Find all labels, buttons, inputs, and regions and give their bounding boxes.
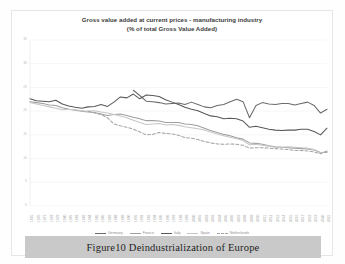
- legend-label: Germany: [108, 231, 123, 235]
- series-line-germany: [133, 90, 327, 118]
- x-tick-label: 1999: [186, 215, 189, 222]
- legend-item-germany[interactable]: Germany: [95, 231, 123, 235]
- legend-label: Spain: [200, 231, 209, 235]
- x-tick-label: 2008: [244, 215, 247, 222]
- x-tick-label: 2020: [322, 215, 325, 222]
- x-tick-label: 2002: [206, 215, 209, 222]
- figure-caption-bar: Figure10 Deindustrialization of Europe: [25, 236, 321, 258]
- x-tick-label: 1985: [96, 215, 99, 222]
- x-tick-label: 1993: [148, 215, 151, 222]
- x-tick-label: 2017: [302, 215, 305, 222]
- x-tick-label: 1983: [83, 215, 86, 222]
- y-tick-label: 25: [13, 86, 27, 89]
- x-tick-label: 1991: [135, 215, 138, 222]
- legend-label: France: [143, 231, 154, 235]
- legend-item-netherlands[interactable]: Netherlands: [217, 231, 249, 235]
- x-tick-label: 1988: [115, 215, 118, 222]
- x-tick-label: 2007: [238, 215, 241, 222]
- x-tick-label: 1981: [70, 215, 73, 222]
- x-tick-label: 1976: [38, 215, 41, 222]
- y-tick-label: 5: [13, 180, 27, 183]
- x-tick-label: 2000: [193, 215, 196, 222]
- x-tick-label: 2021: [328, 215, 331, 222]
- x-tick-label: 2004: [219, 215, 222, 222]
- y-tick-label: 35: [13, 38, 27, 41]
- x-tick-label: 1986: [102, 215, 105, 222]
- legend-swatch-icon: [217, 233, 228, 234]
- x-tick-label: 1982: [76, 215, 79, 222]
- x-tick-label: 2015: [290, 215, 293, 222]
- figure-page: Gross value added at current prices - ma…: [0, 0, 345, 264]
- x-tick-label: 2010: [257, 215, 260, 222]
- x-tick-label: 1987: [109, 215, 112, 222]
- x-tick-label: 1994: [154, 215, 157, 222]
- x-tick-label: 2006: [231, 215, 234, 222]
- y-tick-label: 0: [13, 204, 27, 207]
- x-tick-label: 2011: [264, 215, 267, 222]
- legend-swatch-icon: [187, 233, 198, 234]
- x-tick-label: 1990: [128, 215, 131, 222]
- x-tick-label: 2013: [277, 215, 280, 222]
- x-tick-label: 2016: [296, 215, 299, 222]
- figure-caption-text: Figure10 Deindustrialization of Europe: [87, 242, 260, 253]
- x-tick-label: 1992: [141, 215, 144, 222]
- chart-subtitle: (% of total Gross Value Added): [13, 25, 331, 34]
- chart-title: Gross value added at current prices - ma…: [13, 16, 331, 33]
- chart-svg: [13, 38, 331, 210]
- x-tick-label: 1995: [160, 215, 163, 222]
- x-tick-label: 1997: [173, 215, 176, 222]
- legend-item-spain[interactable]: Spain: [187, 231, 209, 235]
- series-line-spain: [30, 103, 327, 153]
- series-line-italy: [30, 94, 327, 135]
- legend-item-france[interactable]: France: [130, 231, 154, 235]
- legend-swatch-icon: [95, 233, 106, 234]
- x-tick-label: 1996: [167, 215, 170, 222]
- series-lines: [30, 90, 327, 154]
- x-tick-label: 2014: [283, 215, 286, 222]
- x-tick-label: 1977: [44, 215, 47, 222]
- chart-title-line1: Gross value added at current prices - ma…: [13, 16, 331, 25]
- x-tick-label: 2009: [251, 215, 254, 222]
- y-tick-label: 10: [13, 157, 27, 160]
- chart-container: Gross value added at current prices - ma…: [13, 12, 331, 234]
- x-tick-label: 2003: [212, 215, 215, 222]
- legend-swatch-icon: [130, 233, 141, 234]
- legend-label: Italy: [174, 231, 181, 235]
- y-tick-label: 30: [13, 62, 27, 65]
- x-tick-label: 1989: [122, 215, 125, 222]
- chart-legend: GermanyFranceItalySpainNetherlands: [13, 231, 331, 235]
- y-tick-label: 20: [13, 109, 27, 112]
- x-tick-label: 2018: [309, 215, 312, 222]
- plot-area: 05101520253035: [13, 38, 331, 210]
- x-tick-label: 2019: [315, 215, 318, 222]
- x-tick-label: 2001: [199, 215, 202, 222]
- y-tick-label: 15: [13, 133, 27, 136]
- x-tick-label: 1975: [31, 215, 34, 222]
- x-tick-label: 1984: [89, 215, 92, 222]
- x-tick-label: 1980: [64, 215, 67, 222]
- x-tick-label: 2012: [270, 215, 273, 222]
- legend-item-italy[interactable]: Italy: [161, 231, 181, 235]
- legend-label: Netherlands: [230, 231, 249, 235]
- x-tick-label: 1979: [57, 215, 60, 222]
- x-tick-label: 1978: [51, 215, 54, 222]
- legend-swatch-icon: [161, 233, 172, 234]
- x-tick-label: 1998: [180, 215, 183, 222]
- x-tick-label: 2005: [225, 215, 228, 222]
